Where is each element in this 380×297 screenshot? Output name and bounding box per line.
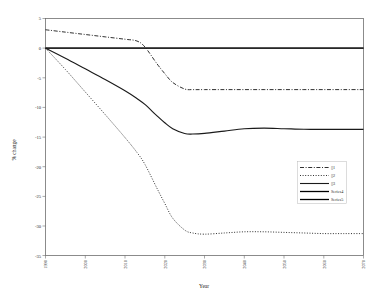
series-line-2 — [46, 48, 364, 234]
x-axis-ticks — [46, 256, 364, 259]
y-tick-label: 5 — [39, 16, 42, 21]
y-tick-label: -15 — [35, 135, 42, 140]
y-axis-title: % change — [11, 139, 17, 161]
x-axis-tick-labels: 1990 2000 2010 2020 2030 2040 2050 2060 … — [43, 259, 366, 269]
y-tick-label: -25 — [35, 194, 42, 199]
y-tick-label: 0 — [39, 46, 42, 51]
x-tick-label: 2000 — [83, 259, 88, 269]
legend-label: ▯3 — [331, 181, 335, 186]
series-line-3 — [46, 48, 364, 134]
y-tick-label: -5 — [37, 76, 42, 81]
y-tick-label: -30 — [35, 224, 42, 229]
series-line-1 — [46, 30, 364, 90]
x-tick-label: 2040 — [242, 259, 247, 269]
x-tick-label: 1990 — [43, 259, 48, 269]
legend-label: ▯2 — [331, 173, 335, 178]
line-chart: 5 0 -5 -10 -15 -20 -25 -30 -35 % change — [0, 0, 380, 297]
legend-label: Series4 — [331, 189, 344, 194]
x-tick-label: 2060 — [322, 259, 327, 269]
y-tick-label: -20 — [35, 165, 42, 170]
chart-legend: ▯1 ▯2 ▯3 Series4 Series5 — [298, 162, 347, 204]
x-axis-title: Year — [199, 283, 209, 289]
y-axis-ticks — [43, 19, 46, 256]
x-tick-label: 2010 — [123, 259, 128, 269]
x-tick-label: 2070 — [361, 259, 366, 269]
x-tick-label: 2020 — [163, 259, 168, 269]
x-tick-label: 2050 — [282, 259, 287, 269]
x-tick-label: 2030 — [202, 259, 207, 269]
y-tick-label: -10 — [35, 105, 42, 110]
y-axis-tick-labels: 5 0 -5 -10 -15 -20 -25 -30 -35 — [35, 16, 42, 258]
legend-label: ▯1 — [331, 165, 335, 170]
chart-container: 5 0 -5 -10 -15 -20 -25 -30 -35 % change — [0, 0, 380, 297]
y-tick-label: -35 — [35, 254, 42, 259]
plot-frame — [46, 19, 364, 256]
legend-label: Series5 — [331, 197, 343, 202]
